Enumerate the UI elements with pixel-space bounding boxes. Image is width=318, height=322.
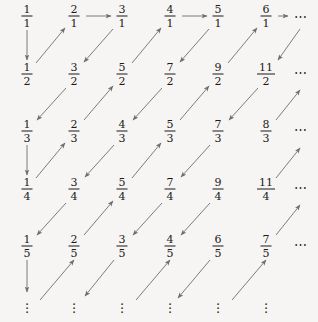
fraction-cell: 7 5 [261,234,272,259]
arrow-diag-down-ellipsis-row4 [133,203,162,235]
rational-enumeration-figure: 1 1 2 1 3 1 4 1 5 1 6 1 ⋯ 1 2 3 2 5 2 7 … [0,0,318,322]
numerator: 5 [117,62,128,75]
arrow-diag-up-11-4-to-8-3 [276,148,300,178]
denominator: 4 [165,190,176,202]
arrow-diag-up-2-5-to-5-4 [84,201,113,235]
arrow-diag-up-1-4-to-2-3 [36,143,65,178]
denominator: 5 [69,247,80,259]
denominator: 2 [22,75,33,87]
denominator: 1 [117,17,128,29]
numerator: 2 [69,234,80,247]
fraction-cell: 4 1 [165,4,176,29]
numerator: 2 [69,119,80,132]
column-ellipsis: ... [264,299,268,311]
arrow-layer [0,0,318,322]
numerator: 4 [165,234,176,247]
arrow-diag-down-3-2-to-1-3 [37,88,66,120]
dot: . [216,307,220,311]
dot: . [168,307,172,311]
denominator: 2 [69,75,80,87]
denominator: 3 [69,132,80,144]
dot: . [264,307,268,311]
numerator: 6 [213,234,224,247]
denominator: 1 [261,17,272,29]
fraction-cell: 4 3 [117,119,128,144]
numerator: 1 [22,62,33,75]
arrow-diag-down-7-2-to-4-3 [133,88,162,120]
fraction-cell: 1 1 [22,4,33,29]
arrow-diag-up-5-2-to-4-1 [132,28,161,63]
column-ellipsis: ... [25,299,29,311]
arrow-diag-up-5-4-to-5-3 [132,143,161,178]
fraction-cell: 2 3 [69,119,80,144]
fraction-cell: 4 5 [165,234,176,259]
numerator: 3 [69,62,80,75]
fraction-cell: 8 3 [261,119,272,144]
arrow-diag-down-3-1-to-3-2 [84,29,113,62]
fraction-cell: 9 2 [213,62,224,87]
denominator: 4 [22,190,33,202]
denominator: 5 [22,247,33,259]
arrow-diag-down-5-1-to-7-2 [180,29,209,62]
column-ellipsis: ... [168,299,172,311]
fraction-cell: 5 3 [165,119,176,144]
arrow-diag-down-7-3-to-9-4 [181,145,210,177]
fraction-cell: 9 4 [213,177,224,202]
fraction-cell: 11 4 [257,177,275,202]
fraction-cell: 1 2 [22,62,33,87]
denominator: 5 [261,247,272,259]
fraction-cell: 7 3 [213,119,224,144]
dot: . [25,307,29,311]
numerator: 9 [213,62,224,75]
denominator: 1 [69,17,80,29]
numerator: 11 [257,177,275,190]
fraction-cell: 7 4 [165,177,176,202]
fraction-cell: 3 4 [69,177,80,202]
denominator: 2 [165,75,176,87]
arrow-diag-down-9-4-to-6-5 [181,203,210,235]
numerator: 8 [261,119,272,132]
arrow-diag-down-6-5-to-dots [178,260,210,298]
denominator: 4 [213,190,224,202]
numerator: 5 [117,177,128,190]
denominator: 4 [257,190,275,202]
fraction-cell: 1 5 [22,234,33,259]
arrow-diag-up-2-3-to-5-2 [84,86,113,120]
denominator: 1 [22,17,33,29]
numerator: 3 [117,234,128,247]
denominator: 1 [165,17,176,29]
denominator: 4 [117,190,128,202]
arrow-diag-up-dots-col3 [232,260,266,300]
row-ellipsis: ⋯ [294,122,309,137]
numerator: 7 [213,119,224,132]
denominator: 3 [261,132,272,144]
fraction-cell: 11 2 [257,62,275,87]
arrow-diag-up-8-3-to-ellipsis [276,90,300,120]
fraction-cell: 5 4 [117,177,128,202]
arrow-diag-up-dots-to-7-5 [136,260,170,300]
denominator: 4 [69,190,80,202]
row-ellipsis: ⋯ [294,237,309,252]
fraction-cell: 6 1 [261,4,272,29]
arrow-diag-down-ellipsis-to-11-2 [278,29,300,60]
numerator: 5 [213,4,224,17]
numerator: 1 [22,177,33,190]
column-ellipsis: ... [72,299,76,311]
fraction-cell: 3 1 [117,4,128,29]
numerator: 7 [261,234,272,247]
denominator: 3 [213,132,224,144]
numerator: 11 [257,62,275,75]
fraction-cell: 3 2 [69,62,80,87]
numerator: 4 [117,119,128,132]
fraction-cell: 1 3 [22,119,33,144]
dot: . [120,307,124,311]
numerator: 5 [165,119,176,132]
denominator: 5 [165,247,176,259]
numerator: 3 [117,4,128,17]
numerator: 1 [22,119,33,132]
denominator: 3 [22,132,33,144]
numerator: 1 [22,234,33,247]
denominator: 2 [257,75,275,87]
denominator: 5 [117,247,128,259]
arrow-diag-up-7-5-to-11-4 [276,205,300,235]
